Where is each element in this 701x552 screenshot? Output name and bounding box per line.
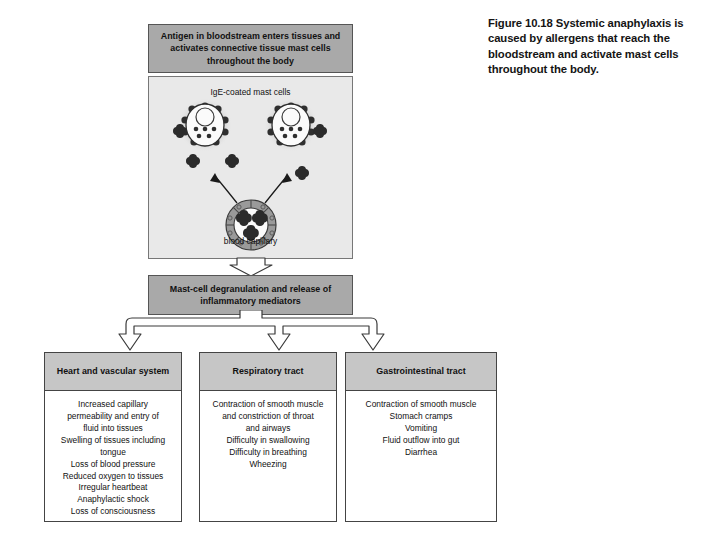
outcome-effect-line: Vomiting [350,423,492,435]
outcome-effects-list: Contraction of smooth muscle and constri… [200,391,336,471]
outcome-effect-line: Contraction of smooth muscle [350,399,492,411]
outcome-effect-line: Loss of blood pressure [49,459,177,471]
outcome-effect-line: and airways [204,423,332,435]
flow-branch-connector-icon [0,310,701,355]
curved-arrow-icon [215,176,287,203]
outcome-effect-line: and constriction of throat [204,411,332,423]
illustration-bottom-label: blood capillary [149,236,352,246]
outcome-title: Gastrointestinal tract [376,365,465,378]
figure-page: Figure 10.18 Systemic anaphylaxis is cau… [0,0,701,552]
outcome-effect-line: permeability and entry of [49,411,177,423]
outcome-effect-line: Anaphylactic shock [49,494,177,506]
outcome-effect-line: Loss of consciousness [49,506,177,518]
mast-cell-illustration-svg [149,77,352,258]
outcome-effect-line: Swelling of tissues including [49,435,177,447]
outcome-title: Heart and vascular system [57,365,169,378]
outcome-box-respiratory-tract: Respiratory tract Contraction of smooth … [199,352,337,522]
outcome-effect-line: Wheezing [204,459,332,471]
outcome-effect-line: Difficulty in breathing [204,447,332,459]
outcome-effect-line: tongue [49,447,177,459]
outcome-title: Respiratory tract [232,365,303,378]
illustration-panel: IgE-coated mast cells [148,76,353,259]
outcome-effect-line: Irregular heartbeat [49,482,177,494]
outcome-effect-line: Diarrhea [350,447,492,459]
mast-cell-icon [264,98,318,152]
outcome-effect-line: Increased capillary [49,399,177,411]
outcome-effect-line: fluid into tissues [49,423,177,435]
outcome-effects-list: Increased capillary permeability and ent… [45,391,181,518]
outcome-box-header: Gastrointestinal tract [346,353,496,391]
outcome-effect-line: Fluid outflow into gut [350,435,492,447]
flow-middle-box-text: Mast-cell degranulation and release of i… [149,283,352,308]
outcome-box-header: Heart and vascular system [45,353,181,391]
outcome-effect-line: Reduced oxygen to tissues [49,471,177,483]
flow-top-box: Antigen in bloodstream enters tissues an… [148,24,353,73]
outcome-effect-line: Contraction of smooth muscle [204,399,332,411]
flow-top-box-text: Antigen in bloodstream enters tissues an… [149,30,352,67]
flow-middle-box: Mast-cell degranulation and release of i… [148,275,353,315]
outcome-box-header: Respiratory tract [200,353,336,391]
flow-arrow-down-icon [228,257,274,277]
outcome-effect-line: Difficulty in swallowing [204,435,332,447]
mast-cell-icon [178,98,232,152]
outcome-box-gastrointestinal-tract: Gastrointestinal tract Contraction of sm… [345,352,497,522]
outcome-effects-list: Contraction of smooth muscle Stomach cra… [346,391,496,459]
curved-arrow-head-icon [210,173,292,183]
outcome-box-heart-and-vascular-system: Heart and vascular system Increased capi… [44,352,182,522]
outcome-effect-line: Stomach cramps [350,411,492,423]
figure-caption: Figure 10.18 Systemic anaphylaxis is cau… [488,16,693,77]
